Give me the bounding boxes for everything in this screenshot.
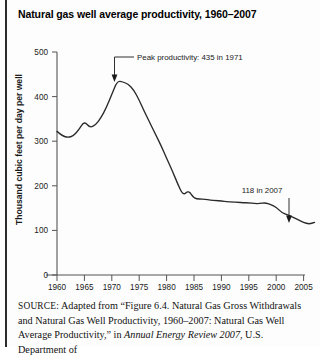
peak-annotation-label: Peak productivity: 435 in 1971 — [137, 53, 243, 62]
x-tick-label-1995: 1995 — [240, 283, 259, 292]
peak-arrow — [115, 57, 122, 75]
y-axis-ticks: 500 400 300 200 100 0 — [34, 48, 57, 280]
x-tick-label-1965: 1965 — [75, 283, 94, 292]
peak-arrowhead — [112, 75, 118, 83]
y-axis-title: Thousand cubic feet per day per well — [14, 74, 24, 225]
source-italic-title: Annual Energy Review 2007 — [124, 329, 240, 340]
line-chart: Thousand cubic feet per day per well 500… — [0, 30, 320, 295]
page-title: Natural gas well average productivity, 1… — [18, 8, 308, 21]
y-tick-label-200: 200 — [34, 182, 48, 191]
y-tick-label-500: 500 — [34, 48, 48, 57]
y-tick-label-400: 400 — [34, 93, 48, 102]
end-arrowhead — [286, 216, 292, 224]
x-tick-label-1975: 1975 — [130, 283, 149, 292]
source-note: SOURCE: Adapted from “Figure 6.4. Natura… — [18, 299, 310, 357]
peak-annotation: Peak productivity: 435 in 1971 — [112, 53, 243, 82]
x-tick-label-1990: 1990 — [212, 283, 231, 292]
chart-container: Thousand cubic feet per day per well 500… — [0, 30, 320, 295]
x-tick-label-2005: 2005 — [294, 283, 313, 292]
x-tick-label-1970: 1970 — [103, 283, 122, 292]
y-tick-label-100: 100 — [34, 226, 48, 235]
x-axis-ticks: 1960 1965 1970 1975 1980 1985 1990 1995 … — [48, 275, 313, 292]
axes — [46, 52, 305, 275]
y-tick-label-300: 300 — [34, 137, 48, 146]
data-series-line — [57, 81, 315, 223]
x-tick-label-1980: 1980 — [157, 283, 176, 292]
x-tick-label-1985: 1985 — [185, 283, 204, 292]
end-annotation: 118 in 2007 — [242, 186, 292, 223]
end-annotation-label: 118 in 2007 — [242, 186, 283, 195]
x-tick-label-2000: 2000 — [267, 283, 286, 292]
x-tick-label-1960: 1960 — [48, 283, 67, 292]
source-label: SOURCE: — [18, 301, 59, 311]
y-tick-label-0: 0 — [43, 271, 48, 280]
